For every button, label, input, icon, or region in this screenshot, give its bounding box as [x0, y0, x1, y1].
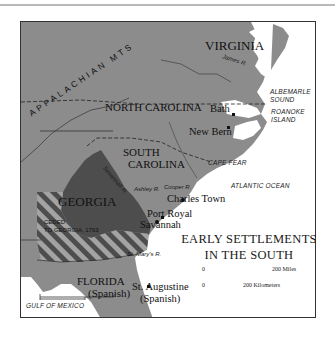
- map-title-line1: EARLY SETTLEMENTS: [174, 233, 324, 246]
- water-roanoke-2: ISLAND: [271, 117, 296, 124]
- river-st-marys: St. Mary's R.: [127, 251, 161, 257]
- region-georgia: GEORGIA: [58, 195, 117, 208]
- eastern-shore: [271, 24, 289, 70]
- river-cooper: Cooper R.: [164, 184, 191, 190]
- river-ashley: Ashley R.: [134, 186, 160, 192]
- settlement-st-augustine-sub: (Spanish): [140, 294, 180, 305]
- water-cape-fear: CAPE FEAR: [208, 160, 247, 167]
- settlement-st-augustine: St. Augustine: [132, 282, 189, 293]
- settlement-port-royal: Port Royal: [147, 209, 192, 220]
- region-south-carolina-1: SOUTH: [123, 147, 160, 158]
- settlement-charles-town: Charles Town: [167, 194, 225, 205]
- ceded-label-1: CEDED: [44, 219, 65, 225]
- settlement-new-bern: New Bern: [189, 127, 232, 138]
- water-gulf: GULF OF MEXICO: [26, 303, 84, 310]
- scale-zero-bottom: 0: [202, 282, 205, 288]
- settlement-bath: Bath: [210, 104, 230, 115]
- region-florida-sub: (Spanish): [88, 288, 130, 299]
- land-mass: [21, 22, 267, 318]
- map-title-line2: IN THE SOUTH: [174, 249, 324, 262]
- water-roanoke-1: ROANOKE: [271, 109, 305, 116]
- water-atlantic: ATLANTIC OCEAN: [231, 183, 290, 190]
- ceded-label-2: TO GEORGIA, 1763: [44, 227, 99, 233]
- region-south-carolina-2: CAROLINA: [128, 159, 185, 170]
- region-virginia: VIRGINIA: [205, 39, 264, 52]
- top-divider: [0, 4, 335, 6]
- water-albemarle-2: SOUND: [270, 97, 294, 104]
- scale-miles-label: 200 Miles: [272, 266, 296, 272]
- region-florida: FLORIDA: [77, 276, 125, 287]
- map-graphic: [21, 22, 316, 318]
- scale-km-label: 200 Kilometers: [243, 282, 280, 288]
- water-albemarle-1: ALBEMARLE: [270, 89, 311, 96]
- scale-zero-top: 0: [202, 266, 205, 272]
- region-north-carolina: NORTH CAROLINA: [105, 102, 202, 113]
- settlement-savannah: Savannah: [140, 220, 181, 231]
